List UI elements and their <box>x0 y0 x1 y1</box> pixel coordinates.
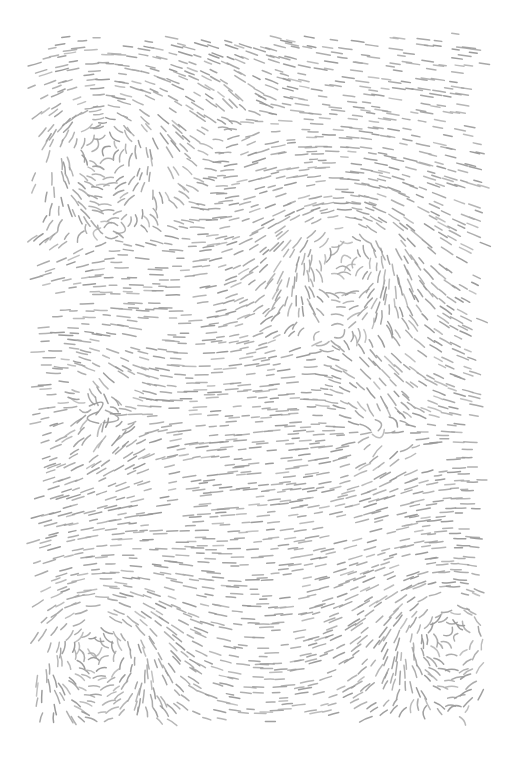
artboard <box>0 0 506 761</box>
flow-field-canvas <box>0 0 506 761</box>
